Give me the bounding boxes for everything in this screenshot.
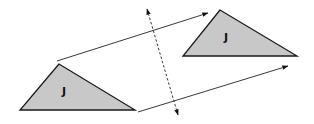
original-triangle xyxy=(20,64,135,110)
image-triangle-label: J xyxy=(223,31,228,44)
diagram-canvas: J J xyxy=(0,0,314,124)
original-triangle-label: J xyxy=(61,85,66,98)
lower-translation-arrow xyxy=(138,66,288,112)
dashed-double-arrow xyxy=(147,9,178,115)
image-triangle xyxy=(183,10,297,56)
